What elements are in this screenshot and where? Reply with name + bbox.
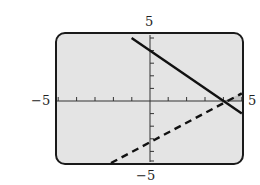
x-min-label: −5 (31, 94, 50, 107)
x-max-label: 5 (248, 94, 256, 107)
y-max-label: 5 (145, 15, 153, 28)
y-min-label: −5 (136, 169, 155, 182)
